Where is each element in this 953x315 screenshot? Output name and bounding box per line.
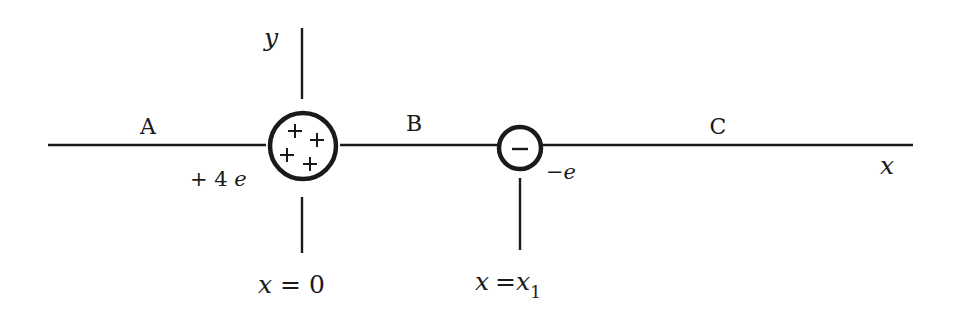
diagram-canvas: A B C y x + 4 e −e x= 0 x=x1	[0, 0, 953, 315]
negative-charge-label: −e	[546, 160, 576, 184]
negative-charge	[499, 127, 541, 169]
region-a-label: A	[139, 114, 157, 139]
region-b-label: B	[406, 111, 422, 136]
positive-charge-circle	[270, 113, 336, 179]
region-c-label: C	[710, 114, 727, 139]
origin-position-label: x= 0	[258, 270, 325, 299]
x1-position-label: x=x1	[475, 267, 541, 302]
charge-diagram: A B C y x + 4 e −e x= 0 x=x1	[0, 0, 953, 315]
positive-charge-label: + 4 e	[190, 167, 247, 191]
positive-charge	[270, 113, 336, 179]
x-axis-label: x	[880, 151, 894, 180]
y-axis-label: y	[263, 23, 279, 52]
